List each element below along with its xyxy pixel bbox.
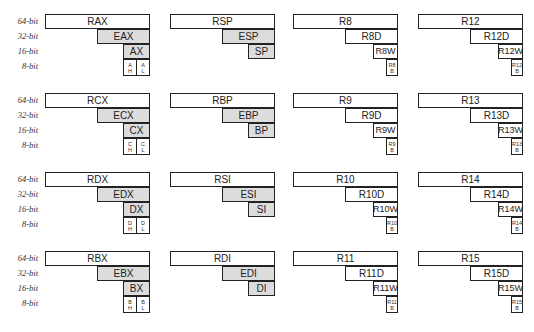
- register-32bit: EDI: [222, 266, 275, 281]
- row-label-32-bit: 32-bit: [2, 266, 38, 281]
- register-block-rax: RAXEAXAXAHAL: [45, 14, 150, 78]
- register-block-rsp: RSPESPSP: [170, 14, 275, 78]
- register-8bit-high: AH: [123, 59, 137, 76]
- register-64bit: R12: [418, 14, 523, 29]
- register-block-rdx: RDXEDXDXDHDL: [45, 172, 150, 236]
- register-64bit: R14: [418, 172, 523, 187]
- register-32bit: R14D: [470, 187, 523, 202]
- register-block-r14: R14R14DR14WR14B: [418, 172, 523, 236]
- register-32bit: R12D: [470, 29, 523, 44]
- register-8bit-low: AL: [136, 59, 150, 76]
- register-block-r12: R12R12DR12WR12B: [418, 14, 523, 78]
- register-32bit: EAX: [97, 29, 150, 44]
- register-16bit: R12W: [498, 44, 523, 59]
- register-8bit: R12B: [511, 59, 523, 76]
- register-8bit-low: CL: [136, 138, 150, 155]
- register-16bit: R10W: [373, 202, 398, 217]
- register-16bit: R13W: [498, 123, 523, 138]
- row-label-8-bit: 8-bit: [2, 217, 38, 232]
- row-label-64-bit: 64-bit: [2, 93, 38, 108]
- register-8bit-high: CH: [123, 138, 137, 155]
- register-64bit: RBX: [45, 251, 150, 266]
- register-16bit: SI: [248, 202, 275, 217]
- register-16bit: R9W: [373, 123, 398, 138]
- register-32bit: R8D: [345, 29, 398, 44]
- register-32bit: ESI: [222, 187, 275, 202]
- register-8bit: R15B: [511, 296, 523, 313]
- register-8bit: R10B: [386, 217, 398, 234]
- register-8bit: R13B: [511, 138, 523, 155]
- register-64bit: R11: [293, 251, 398, 266]
- register-block-r9: R9R9DR9WR9B: [293, 93, 398, 157]
- row-label-32-bit: 32-bit: [2, 29, 38, 44]
- row-label-8-bit: 8-bit: [2, 296, 38, 311]
- register-block-rbp: RBPEBPBP: [170, 93, 275, 157]
- register-16bit: AX: [123, 44, 150, 59]
- register-32bit: R10D: [345, 187, 398, 202]
- register-64bit: RDI: [170, 251, 275, 266]
- register-64bit: RSP: [170, 14, 275, 29]
- register-32bit: R11D: [345, 266, 398, 281]
- register-8bit-high: BH: [123, 296, 137, 313]
- register-16bit: R8W: [373, 44, 398, 59]
- register-16bit: DX: [123, 202, 150, 217]
- register-64bit: R9: [293, 93, 398, 108]
- row-label-64-bit: 64-bit: [2, 251, 38, 266]
- register-8bit-low: BL: [136, 296, 150, 313]
- register-32bit: EDX: [97, 187, 150, 202]
- row-label-16-bit: 16-bit: [2, 123, 38, 138]
- register-block-r8: R8R8DR8WR8B: [293, 14, 398, 78]
- register-16bit: SP: [248, 44, 275, 59]
- register-64bit: RCX: [45, 93, 150, 108]
- row-label-8-bit: 8-bit: [2, 59, 38, 74]
- register-block-r11: R11R11DR11WR11B: [293, 251, 398, 315]
- row-label-32-bit: 32-bit: [2, 187, 38, 202]
- register-8bit: R11B: [386, 296, 398, 313]
- register-block-rsi: RSIESISI: [170, 172, 275, 236]
- register-64bit: R8: [293, 14, 398, 29]
- register-32bit: ECX: [97, 108, 150, 123]
- register-block-rcx: RCXECXCXCHCL: [45, 93, 150, 157]
- register-8bit-high: DH: [123, 217, 137, 234]
- register-32bit: R13D: [470, 108, 523, 123]
- row-label-64-bit: 64-bit: [2, 172, 38, 187]
- register-block-r10: R10R10DR10WR10B: [293, 172, 398, 236]
- register-64bit: RAX: [45, 14, 150, 29]
- register-block-r13: R13R13DR13WR13B: [418, 93, 523, 157]
- register-64bit: R13: [418, 93, 523, 108]
- row-label-32-bit: 32-bit: [2, 108, 38, 123]
- register-64bit: RSI: [170, 172, 275, 187]
- register-16bit: CX: [123, 123, 150, 138]
- register-64bit: RBP: [170, 93, 275, 108]
- register-block-r15: R15R15DR15WR15B: [418, 251, 523, 315]
- register-8bit: R8B: [386, 59, 398, 76]
- register-16bit: R15W: [498, 281, 523, 296]
- row-label-16-bit: 16-bit: [2, 281, 38, 296]
- register-block-rbx: RBXEBXBXBHBL: [45, 251, 150, 315]
- register-32bit: R9D: [345, 108, 398, 123]
- register-64bit: RDX: [45, 172, 150, 187]
- row-label-16-bit: 16-bit: [2, 202, 38, 217]
- register-16bit: R11W: [373, 281, 398, 296]
- register-8bit: R9B: [386, 138, 398, 155]
- register-32bit: EBP: [222, 108, 275, 123]
- row-label-8-bit: 8-bit: [2, 138, 38, 153]
- register-block-rdi: RDIEDIDI: [170, 251, 275, 315]
- register-8bit-low: DL: [136, 217, 150, 234]
- register-16bit: BP: [248, 123, 275, 138]
- register-32bit: ESP: [222, 29, 275, 44]
- register-32bit: EBX: [97, 266, 150, 281]
- register-16bit: DI: [248, 281, 275, 296]
- register-32bit: R15D: [470, 266, 523, 281]
- register-8bit: R14B: [511, 217, 523, 234]
- register-16bit: BX: [123, 281, 150, 296]
- row-label-16-bit: 16-bit: [2, 44, 38, 59]
- register-64bit: R15: [418, 251, 523, 266]
- row-label-64-bit: 64-bit: [2, 14, 38, 29]
- register-16bit: R14W: [498, 202, 523, 217]
- register-64bit: R10: [293, 172, 398, 187]
